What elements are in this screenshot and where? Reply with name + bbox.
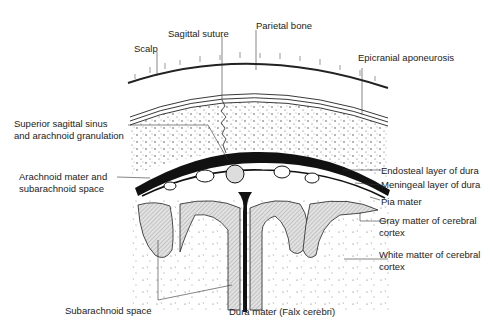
label-arachnoid-mater: Arachnoid mater andsubarachnoid space xyxy=(19,171,107,195)
scalp-layer xyxy=(128,52,388,88)
label-endosteal-layer: Endosteal layer of dura xyxy=(381,165,479,177)
label-meningeal-layer: Meningeal layer of dura xyxy=(381,179,480,191)
label-subarachnoid-space: Subarachnoid space xyxy=(65,305,152,317)
label-dura-mater-falx: Dura mater (Falx cerebri) xyxy=(229,306,335,318)
label-gray-matter: Gray matter of cerebralcortex xyxy=(379,215,477,239)
cerebral-cortex xyxy=(130,192,390,312)
parietal-bone-layer xyxy=(130,94,388,178)
label-pia-mater: Pia mater xyxy=(381,196,422,208)
label-scalp: Scalp xyxy=(134,43,158,55)
label-epicranial-aponeurosis: Epicranial aponeurosis xyxy=(358,52,454,64)
label-parietal-bone: Parietal bone xyxy=(256,20,312,32)
label-white-matter: White matter of cerebralcortex xyxy=(379,249,480,273)
label-sagittal-suture: Sagittal suture xyxy=(168,28,229,40)
label-superior-sagittal-sinus: Superior sagittal sinusand arachnoid gra… xyxy=(14,118,124,142)
